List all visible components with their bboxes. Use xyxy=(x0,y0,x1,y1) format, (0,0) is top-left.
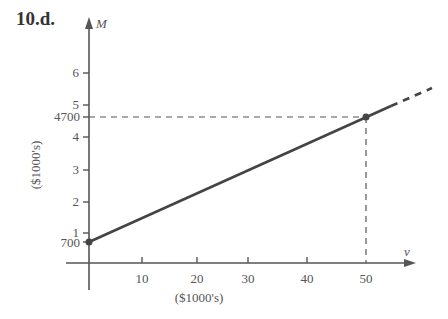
y-ticks xyxy=(83,73,89,242)
data-line xyxy=(89,106,391,242)
x-axis-units: ($1000's) xyxy=(175,290,224,305)
x-ticks xyxy=(142,257,307,263)
y-axis-variable: M xyxy=(95,16,108,31)
x-tick-label: 20 xyxy=(191,271,204,286)
y-tick-label: 3 xyxy=(73,162,80,177)
y-axis-units: ($1000's) xyxy=(28,141,43,190)
y-annotation-700: 700 xyxy=(61,235,81,250)
y-tick-label: 2 xyxy=(73,194,80,209)
x-tick-label: 40 xyxy=(301,271,314,286)
x-tick-label: 30 xyxy=(242,271,255,286)
y-tick-label: 4 xyxy=(73,129,80,144)
data-point-end xyxy=(363,114,370,121)
data-point-start xyxy=(86,239,93,246)
x-axis-arrow-icon xyxy=(404,259,416,267)
line-chart: M v 10 20 30 40 50 ($1000's) 1 2 3 4 5 6… xyxy=(0,0,448,319)
x-axis-variable: v xyxy=(404,244,410,259)
y-annotation-4700: 4700 xyxy=(54,109,80,124)
y-axis-arrow-icon xyxy=(85,17,93,29)
y-tick-label: 6 xyxy=(73,65,80,80)
data-line-extension xyxy=(391,88,432,106)
x-tick-label: 50 xyxy=(360,271,373,286)
x-tick-label: 10 xyxy=(136,271,149,286)
